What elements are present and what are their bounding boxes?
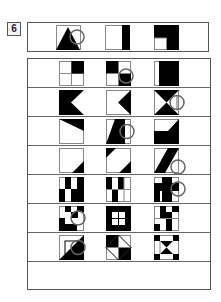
question-number: 6 — [7, 22, 21, 36]
figure-staircase-bars-icon — [154, 206, 179, 231]
figure-checker-with-circle-icon — [59, 206, 84, 231]
question-figure-row — [27, 22, 209, 52]
figure-left-pointing-triangle-icon — [106, 90, 131, 115]
figure-bottom-notched-black-icon — [154, 119, 179, 144]
figure-black-with-arrow-cut-icon — [59, 90, 84, 115]
figure-right-black-bar-icon — [105, 25, 130, 50]
answer-options-table — [27, 58, 211, 290]
figure-vertical-bars-b-icon — [106, 177, 131, 202]
option-row-1[interactable] — [28, 59, 210, 88]
figure-parallelogram-with-circle-icon — [106, 119, 131, 144]
figure-black-frame-window-icon — [106, 206, 131, 231]
option-row-2[interactable] — [28, 88, 210, 117]
figure-grid-top-right-black-icon — [59, 61, 84, 86]
option-row-3[interactable] — [28, 117, 210, 146]
option-row-8[interactable] — [28, 262, 210, 291]
figure-diagonal-band-with-circle-icon — [154, 148, 179, 173]
figure-top-right-triangle-icon — [59, 119, 84, 144]
figure-diagonal-split-with-circle-icon — [59, 235, 84, 260]
figure-opposite-corner-triangles-icon — [106, 148, 131, 173]
figure-cross-pattern-with-circle-icon — [154, 177, 179, 202]
figure-diamond-triangles-icon — [106, 235, 131, 260]
figure-diagonal-checker-with-circle-icon — [106, 61, 131, 86]
figure-triangle-with-circle-icon — [56, 25, 81, 50]
figure-vertical-bars-a-icon — [59, 177, 84, 202]
option-row-7[interactable] — [28, 233, 210, 262]
option-row-6[interactable] — [28, 204, 210, 233]
option-row-5[interactable] — [28, 175, 210, 204]
figure-bowtie-with-circle-icon — [154, 90, 179, 115]
figure-hourglass-corners-icon — [154, 235, 179, 260]
figure-l-shaped-black-corner-icon — [154, 25, 179, 50]
figure-bottom-right-triangle-icon — [59, 148, 84, 173]
figure-thin-left-strip-icon — [154, 61, 179, 86]
option-row-4[interactable] — [28, 146, 210, 175]
